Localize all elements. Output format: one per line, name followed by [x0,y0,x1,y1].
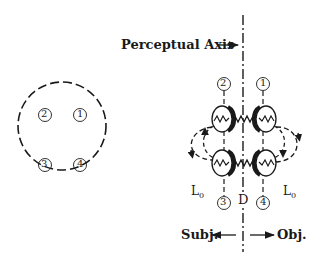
l0-left-main: L [191,184,199,198]
unit-upper-right [254,106,276,132]
perceptual-axis-label: Perceptual Axis [121,37,234,52]
diagram-canvas: 2 1 3 4 Perceptual Axis 2 1 3 4 D L0 L0 … [0,0,317,262]
l0-right-label: L0 [283,184,296,200]
d-label: D [238,192,248,207]
right-bottom-right-node: 4 [260,196,266,207]
right-top-right-node: 1 [260,77,266,88]
l0-right-main: L [283,184,291,198]
subj-label: Subj. [181,227,218,242]
left-node-2: 2 [41,108,47,119]
left-node-1: 1 [77,108,83,119]
obj-label: Obj. [277,227,307,242]
l0-left-sub: 0 [199,191,204,200]
right-top-left-node: 2 [220,77,226,88]
unit-lower-left [212,150,234,176]
l0-right-sub: 0 [291,191,296,200]
left-node-4: 4 [77,158,83,169]
l0-left-label: L0 [191,184,204,200]
left-node-3: 3 [41,158,47,169]
right-rotation-loops [274,126,299,162]
right-bottom-left-node: 3 [220,196,226,207]
unit-lower-right [254,150,276,176]
left-rotation-loops [191,126,214,160]
left-dashed-circle [18,82,106,170]
unit-upper-left [212,106,234,132]
